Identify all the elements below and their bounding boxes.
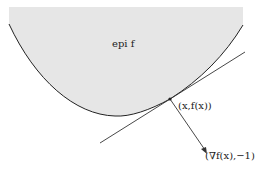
point-label: (x,f(x)) — [178, 100, 212, 111]
vector-label: (∇f(x),−1) — [205, 150, 255, 161]
region-label: epi f — [112, 38, 134, 49]
epigraph-diagram — [0, 0, 265, 174]
tangent-point — [168, 97, 171, 100]
